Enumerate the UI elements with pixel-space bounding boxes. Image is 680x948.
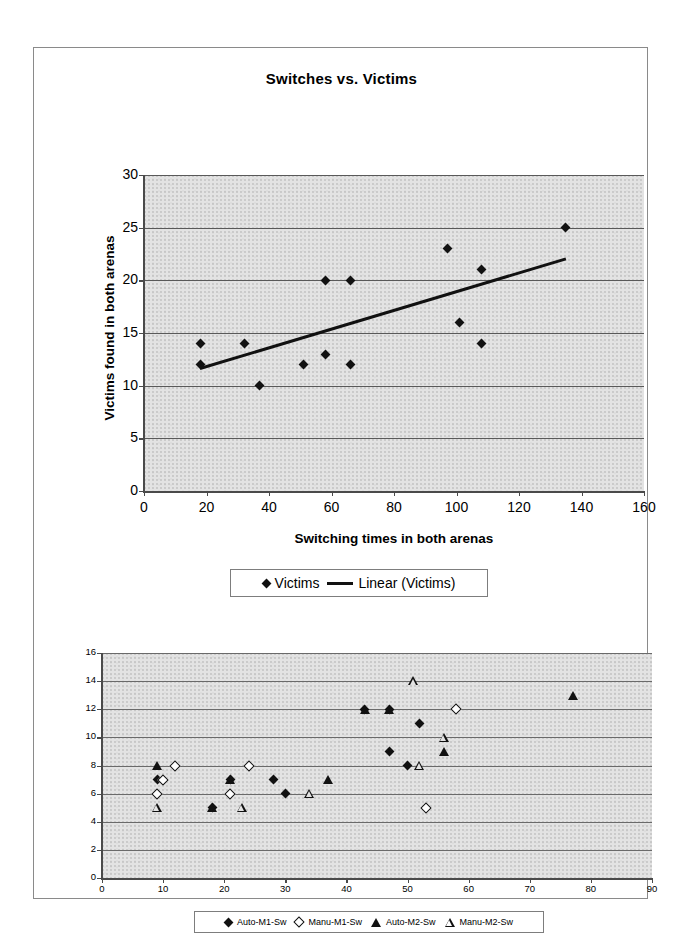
x-tick-label: 60 xyxy=(307,500,357,514)
legend-bottom: Auto-M1-SwManu-M1-SwAuto-M2-SwManu-M2-Sw xyxy=(194,911,544,933)
x-tick-label: 40 xyxy=(244,500,294,514)
legend-entry[interactable]: Auto-M2-Sw xyxy=(371,918,436,927)
x-tick-label: 10 xyxy=(138,884,188,894)
gridline xyxy=(144,438,644,439)
x-axis-tick xyxy=(469,878,470,883)
gridline xyxy=(144,280,644,281)
data-point-diamond-open xyxy=(157,774,168,785)
gridline xyxy=(144,175,644,176)
legend-entry[interactable]: Linear (Victims) xyxy=(327,576,455,590)
y-tick-label: 6 xyxy=(56,788,96,798)
legend-label: Manu-M2-Sw xyxy=(460,918,514,927)
y-axis-tick xyxy=(97,794,102,795)
plot-area-bottom xyxy=(102,653,652,878)
x-axis-tick xyxy=(285,878,286,883)
data-point-diamond-filled xyxy=(384,746,394,756)
data-point-diamond-filled xyxy=(455,318,465,328)
x-axis-tick xyxy=(207,491,208,496)
x-axis-tick xyxy=(408,878,409,883)
x-axis-tick xyxy=(591,878,592,883)
legend-entry[interactable]: Victims xyxy=(263,576,320,590)
y-tick-label: 4 xyxy=(56,816,96,826)
data-point-diamond-filled xyxy=(268,775,278,785)
data-point-triangle-filled xyxy=(323,775,333,784)
x-axis-tick xyxy=(346,878,347,883)
legend-label: Manu-M1-Sw xyxy=(308,918,362,927)
y-axis-tick xyxy=(97,850,102,851)
data-point-diamond-filled xyxy=(195,339,205,349)
y-axis-tick xyxy=(139,280,144,281)
gridline xyxy=(102,766,652,767)
y-axis-tick xyxy=(139,175,144,176)
y-axis-tick xyxy=(97,766,102,767)
x-tick-label: 70 xyxy=(505,884,555,894)
chart-switching-by-method: 1614121086420 0102030405060708090 Auto-M… xyxy=(34,593,649,893)
legend-entry[interactable]: Auto-M1-Sw xyxy=(225,918,287,927)
trendline-swatch-icon xyxy=(327,582,353,585)
y-tick-label: 10 xyxy=(56,731,96,741)
legend-label: Auto-M2-Sw xyxy=(386,918,436,927)
y-tick-label: 12 xyxy=(56,703,96,713)
y-axis-tick xyxy=(97,653,102,654)
x-axis-tick xyxy=(652,878,653,883)
plot-area-top xyxy=(144,175,644,491)
diamond-open-marker-icon xyxy=(294,916,305,927)
data-point-diamond-filled xyxy=(477,339,487,349)
y-axis-tick xyxy=(139,438,144,439)
x-tick-label: 20 xyxy=(182,500,232,514)
x-axis-tick xyxy=(644,491,645,496)
data-point-triangle-filled xyxy=(568,691,578,700)
legend-label: Linear (Victims) xyxy=(358,576,455,590)
legend-entry[interactable]: Manu-M1-Sw xyxy=(295,918,362,927)
data-point-diamond-filled xyxy=(152,775,162,785)
x-tick-label: 160 xyxy=(619,500,669,514)
data-point-triangle-open xyxy=(152,803,162,812)
diamond-filled-marker-icon xyxy=(261,578,271,588)
scanned-page-frame: Switches vs. Victims 302520151050 020406… xyxy=(33,47,648,899)
y-tick-label: 14 xyxy=(56,675,96,685)
gridline xyxy=(144,386,644,387)
data-point-diamond-open xyxy=(420,802,431,813)
y-axis-tick xyxy=(97,737,102,738)
legend-entry[interactable]: Manu-M2-Sw xyxy=(445,918,514,927)
data-point-diamond-filled xyxy=(345,360,355,370)
x-axis-tick xyxy=(530,878,531,883)
data-point-diamond-filled xyxy=(477,265,487,275)
x-axis-tick xyxy=(457,491,458,496)
x-tick-label: 140 xyxy=(557,500,607,514)
x-tick-label: 80 xyxy=(369,500,419,514)
y-axis-tick xyxy=(139,228,144,229)
gridline xyxy=(102,850,652,851)
gridline xyxy=(102,709,652,710)
x-tick-label: 0 xyxy=(77,884,127,894)
gridline xyxy=(144,228,644,229)
gridline xyxy=(102,737,652,738)
x-axis-title-top: Switching times in both arenas xyxy=(144,531,644,546)
data-point-diamond-filled xyxy=(207,803,217,813)
y-axis-tick xyxy=(139,386,144,387)
y-axis-title-top: Victims found in both arenas xyxy=(102,178,117,478)
triangle-filled-marker-icon xyxy=(371,918,381,927)
x-axis-tick xyxy=(269,491,270,496)
data-point-diamond-filled xyxy=(415,718,425,728)
x-tick-label: 90 xyxy=(627,884,677,894)
data-point-diamond-filled xyxy=(225,775,235,785)
gridline xyxy=(102,794,652,795)
gridline xyxy=(144,333,644,334)
x-tick-label: 120 xyxy=(494,500,544,514)
x-tick-label: 80 xyxy=(566,884,616,894)
legend-label: Victims xyxy=(275,576,320,590)
chart-title-top: Switches vs. Victims xyxy=(34,70,649,87)
x-axis-tick xyxy=(102,878,103,883)
chart-switches-vs-victims: Switches vs. Victims 302520151050 020406… xyxy=(34,48,649,568)
x-tick-label: 40 xyxy=(321,884,371,894)
y-tick-label: 2 xyxy=(56,844,96,854)
x-tick-label: 50 xyxy=(383,884,433,894)
data-point-diamond-filled xyxy=(239,339,249,349)
x-axis-tick xyxy=(332,491,333,496)
x-tick-label: 100 xyxy=(432,500,482,514)
gridline xyxy=(102,681,652,682)
gridline xyxy=(102,653,652,654)
x-axis-tick xyxy=(144,491,145,496)
y-axis-tick xyxy=(97,709,102,710)
